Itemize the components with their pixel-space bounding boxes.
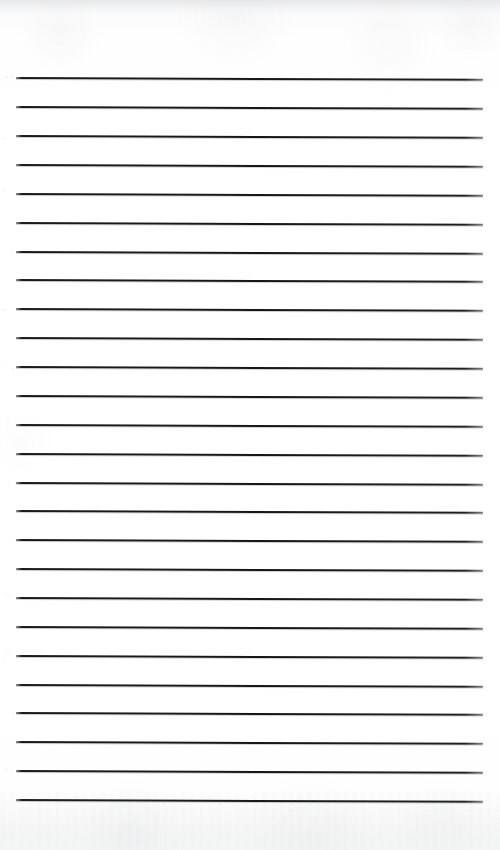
ruled-line xyxy=(16,510,483,514)
ruled-lines-group xyxy=(0,0,500,850)
scanned-page xyxy=(0,0,500,850)
ruled-line xyxy=(16,77,483,81)
ruled-line xyxy=(16,193,483,197)
ruled-line xyxy=(16,135,483,139)
margin-fleck xyxy=(5,769,7,771)
ruled-line xyxy=(16,164,483,168)
margin-fleck xyxy=(12,368,14,370)
margin-fleck xyxy=(6,426,8,428)
ruled-line xyxy=(16,337,483,341)
ruled-line xyxy=(16,222,483,226)
ruled-line xyxy=(16,655,483,659)
ruled-line xyxy=(16,251,483,255)
ruled-line xyxy=(16,597,483,601)
margin-fleck xyxy=(12,539,14,541)
ruled-line xyxy=(16,424,483,428)
ruled-line xyxy=(16,741,483,745)
ruled-line xyxy=(16,106,483,110)
margin-fleck xyxy=(5,593,7,595)
ruled-line xyxy=(16,366,483,370)
ruled-line xyxy=(16,799,483,803)
ruled-line xyxy=(16,539,483,543)
ruled-line xyxy=(16,395,483,399)
ruled-line xyxy=(16,482,483,486)
ruled-line xyxy=(16,453,483,457)
ruled-line xyxy=(16,308,483,312)
ruled-line xyxy=(16,568,483,572)
ruled-line xyxy=(16,770,483,774)
ruled-line xyxy=(16,626,483,630)
margin-fleck xyxy=(8,482,10,484)
ruled-line xyxy=(16,279,483,283)
margin-fleck xyxy=(12,252,14,254)
ruled-line xyxy=(16,712,483,716)
ruled-line xyxy=(16,684,483,688)
